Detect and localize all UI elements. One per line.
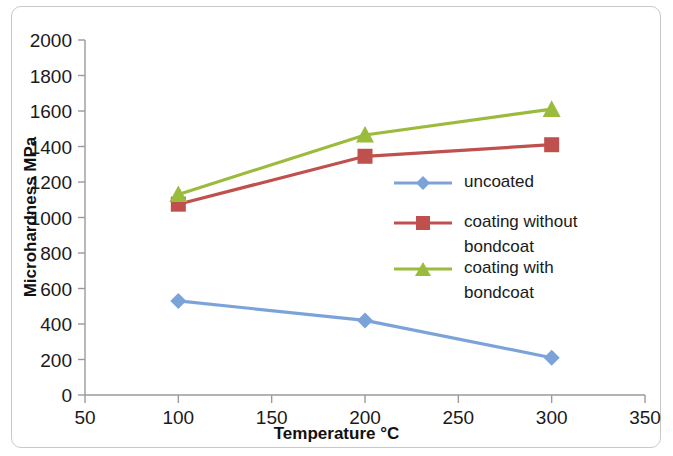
legend-label-coating-with-bondcoat: coating with xyxy=(464,258,554,278)
y-tick-label: 400 xyxy=(40,314,72,335)
legend-item-coating-without-bondcoat: coating without bondcoat xyxy=(392,213,637,259)
data-point-coating-without-bondcoat-300 xyxy=(544,137,559,152)
legend-label-coating-without-bondcoat: coating without xyxy=(464,212,577,232)
chart-figure: 0200400600800100012001400160018002000501… xyxy=(0,0,673,456)
legend-swatch-uncoated xyxy=(392,173,454,193)
y-axis-title-container: Microhardness MPa xyxy=(18,120,44,320)
y-axis-title: Microhardness MPa xyxy=(21,117,41,317)
legend-swatch-coating-with-bondcoat xyxy=(392,259,454,279)
data-point-uncoated-200 xyxy=(357,312,373,328)
legend-item-uncoated: uncoated xyxy=(392,173,637,213)
legend-label-uncoated: uncoated xyxy=(464,172,534,192)
legend-label-coating-without-bondcoat-line2: bondcoat xyxy=(464,237,534,257)
y-tick-label: 600 xyxy=(40,279,72,300)
series-line-uncoated xyxy=(178,301,551,358)
data-point-uncoated-300 xyxy=(544,350,560,366)
data-point-uncoated-100 xyxy=(170,293,186,309)
data-point-coating-without-bondcoat-200 xyxy=(358,149,373,164)
legend-label-coating-with-bondcoat-line2: bondcoat xyxy=(464,283,534,303)
legend-swatch-coating-without-bondcoat xyxy=(392,213,454,233)
y-tick-label: 2000 xyxy=(30,30,72,51)
y-tick-label: 800 xyxy=(40,243,72,264)
chart-legend: uncoated coating without bondcoat coatin… xyxy=(392,173,637,305)
y-tick-label: 0 xyxy=(61,385,72,406)
y-tick-label: 200 xyxy=(40,350,72,371)
legend-item-coating-with-bondcoat: coating with bondcoat xyxy=(392,259,637,305)
x-axis-title: Temperature °C xyxy=(0,424,673,444)
y-tick-label: 1800 xyxy=(30,66,72,87)
